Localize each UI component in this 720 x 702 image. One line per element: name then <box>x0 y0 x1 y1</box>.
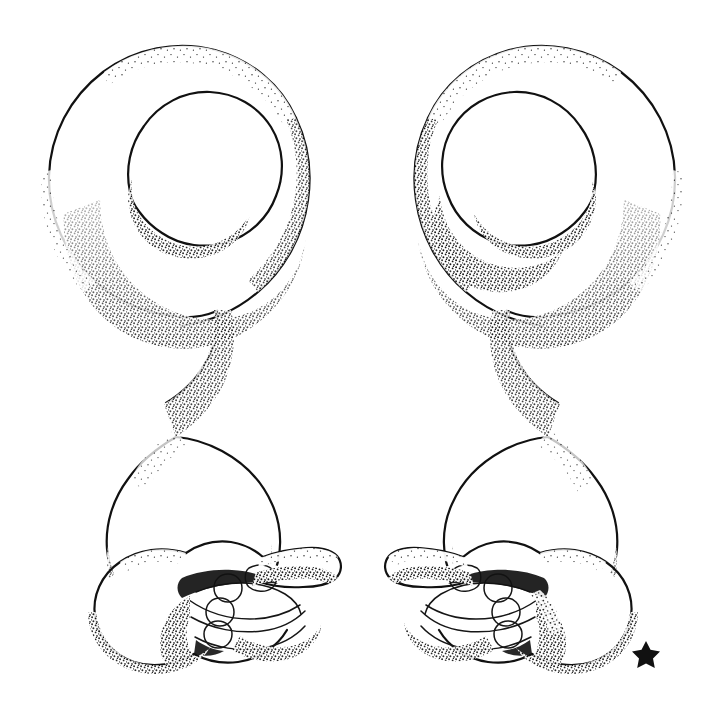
pointing-hand-right <box>385 541 638 673</box>
illustration-canvas: Mirrored question marks above mirrored p… <box>0 0 720 702</box>
pointing-hand-left <box>88 541 341 673</box>
illustration-svg <box>0 0 720 702</box>
signature-star-icon <box>632 641 660 668</box>
